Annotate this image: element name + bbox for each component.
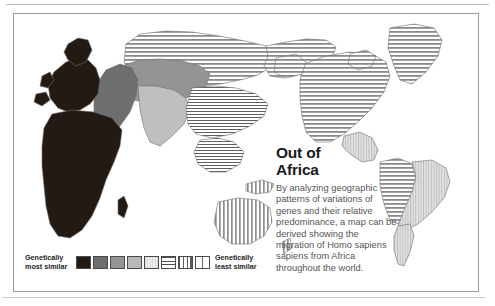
page-title: Out of Africa bbox=[276, 145, 398, 178]
legend-label-most-similar: Genetically most similar bbox=[25, 254, 71, 271]
legend-swatch-7-vertical-rule bbox=[178, 256, 193, 269]
legend-swatch-1-solid-darkest bbox=[76, 256, 91, 269]
bottom-divider-rule bbox=[2, 297, 485, 298]
legend-swatch-5-pale-vertical bbox=[144, 256, 159, 269]
map-figure-panel: Out of Africa By analyzing geographic pa… bbox=[13, 13, 479, 292]
caption-body-text: By analyzing geographic patterns of vari… bbox=[276, 183, 398, 274]
legend: Genetically most similar Genetically lea… bbox=[25, 254, 267, 271]
legend-swatch-6-horizontal-rule bbox=[161, 256, 176, 269]
world-map-svg bbox=[14, 14, 478, 291]
legend-swatch-4-light-gray bbox=[127, 256, 142, 269]
legend-label-least-similar: Genetically least similar bbox=[215, 254, 267, 271]
legend-swatch-2-dark-gray bbox=[93, 256, 108, 269]
top-divider-rule bbox=[6, 4, 489, 5]
legend-swatch-8-white bbox=[195, 256, 210, 269]
legend-swatch-3-mid-gray bbox=[110, 256, 125, 269]
legend-swatch-row bbox=[76, 256, 210, 269]
caption-block: Out of Africa By analyzing geographic pa… bbox=[276, 145, 398, 274]
figure-root: Out of Africa By analyzing geographic pa… bbox=[0, 0, 495, 306]
world-map-stage bbox=[14, 14, 478, 291]
